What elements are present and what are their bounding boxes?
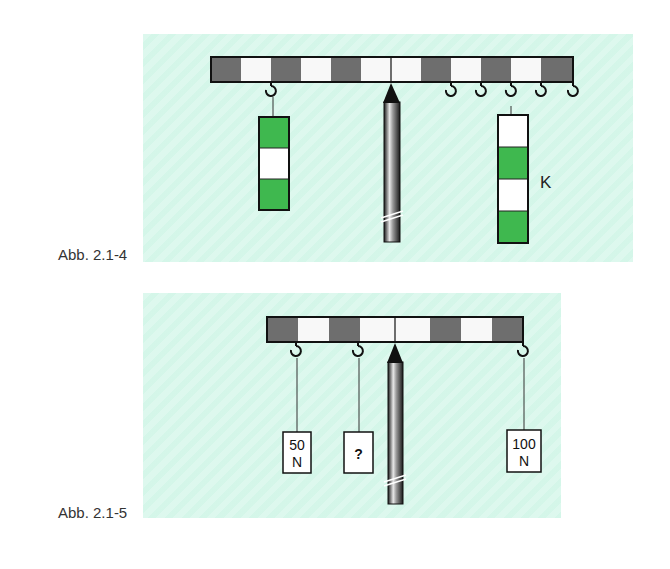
svg-text:N: N — [292, 454, 302, 470]
hook-icons-top — [266, 82, 578, 96]
weight-unknown: ? — [344, 432, 373, 473]
lever-bar-bottom — [267, 317, 523, 342]
weight-k — [498, 115, 528, 243]
weight-50n: 50 N — [283, 432, 311, 473]
svg-text:50: 50 — [289, 437, 305, 453]
svg-text:?: ? — [354, 446, 363, 462]
pivot-rod-top — [381, 83, 403, 242]
lever-diagrams: K 50 N ? 100 N — [0, 0, 670, 569]
pivot-rod-bottom — [384, 343, 406, 504]
weight-left-green-white-green — [259, 117, 289, 210]
lever-bar-top — [211, 57, 573, 82]
svg-text:N: N — [519, 453, 529, 469]
weight-k-label: K — [540, 173, 552, 192]
svg-text:100: 100 — [512, 436, 536, 452]
weight-100n: 100 N — [507, 430, 541, 472]
hook-icons-bottom — [291, 342, 528, 356]
